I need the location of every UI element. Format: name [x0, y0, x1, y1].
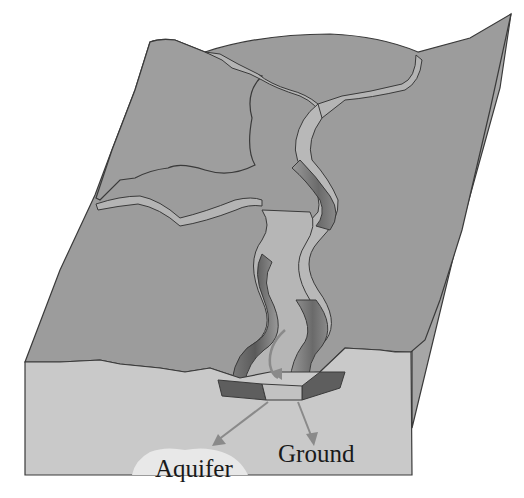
ground-label: Ground: [278, 440, 354, 468]
aquifer-label: Aquifer: [155, 455, 233, 483]
stream-water-section: [262, 384, 302, 400]
losing-stream-diagram: [0, 0, 524, 498]
